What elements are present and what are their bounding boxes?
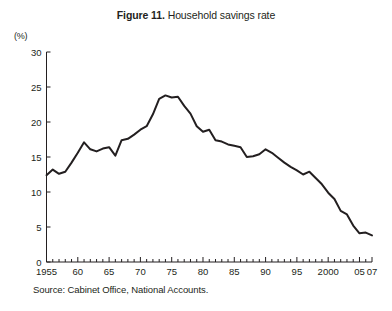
figure-container: Figure 11. Household savings rate (%) 05… [0, 0, 392, 311]
x-axis-tick-label: 05 [354, 266, 365, 277]
y-axis-tick-label: 25 [31, 82, 42, 93]
x-axis-tick-label: 70 [135, 266, 146, 277]
x-axis-tick-label: 75 [166, 266, 177, 277]
y-axis-tick-label: 30 [31, 47, 42, 58]
y-axis-tick-label: 10 [31, 187, 42, 198]
x-axis-ticks: 1955606570758085909520000507 [36, 257, 377, 277]
x-axis-tick-label: 65 [104, 266, 115, 277]
x-axis-tick-label: 07 [367, 266, 378, 277]
chart-axes [47, 52, 373, 262]
source-note: Source: Cabinet Office, National Account… [33, 284, 208, 295]
x-axis-tick-label: 1955 [36, 266, 57, 277]
x-axis-tick-label: 2000 [318, 266, 339, 277]
savings-rate-line-chart: 051015202530 195560657075808590952000050… [0, 0, 392, 311]
y-axis-tick-label: 20 [31, 117, 42, 128]
y-axis-tick-label: 5 [36, 222, 41, 233]
x-axis-tick-label: 80 [198, 266, 209, 277]
x-axis-tick-label: 90 [260, 266, 271, 277]
y-axis-ticks: 051015202530 [31, 47, 51, 268]
x-axis-tick-label: 85 [229, 266, 240, 277]
savings-rate-series-line [47, 95, 373, 235]
x-axis-tick-label: 95 [292, 266, 303, 277]
data-series-group [47, 95, 373, 235]
y-axis-tick-label: 15 [31, 152, 42, 163]
x-axis-tick-label: 60 [73, 266, 84, 277]
